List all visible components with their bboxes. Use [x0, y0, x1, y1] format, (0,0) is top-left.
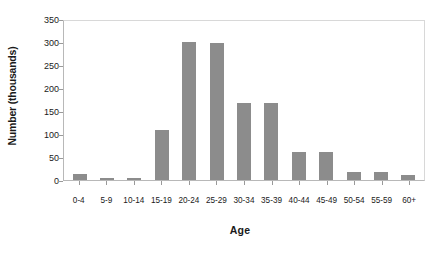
bar — [73, 174, 87, 180]
x-tick-label: 60+ — [389, 196, 429, 205]
bar-slot — [230, 21, 257, 180]
bar-chart: Number (thousands) 050100150200250300350… — [0, 0, 446, 254]
x-tick-mark — [409, 181, 410, 185]
y-tick-label: 0 — [29, 177, 59, 186]
bar — [374, 172, 388, 180]
bar-slot — [66, 21, 93, 180]
y-tick-label: 200 — [29, 85, 59, 94]
bar-slot — [395, 21, 422, 180]
bar — [100, 178, 114, 180]
bar — [401, 175, 415, 180]
bar-slot — [176, 21, 203, 180]
x-tick-mark — [244, 181, 245, 185]
bar-slot — [367, 21, 394, 180]
bar — [264, 103, 278, 180]
bar-slot — [148, 21, 175, 180]
bar-slot — [121, 21, 148, 180]
bar — [292, 152, 306, 180]
bar — [347, 172, 361, 180]
bar — [237, 103, 251, 180]
y-tick-label: 300 — [29, 39, 59, 48]
x-tick-mark — [161, 181, 162, 185]
bars-group — [64, 21, 424, 180]
x-tick-mark — [299, 181, 300, 185]
x-axis-title: Age — [55, 224, 425, 236]
bar-slot — [340, 21, 367, 180]
bar-slot — [203, 21, 230, 180]
bar-slot — [93, 21, 120, 180]
bar-slot — [285, 21, 312, 180]
x-tick-mark — [327, 181, 328, 185]
bar-slot — [258, 21, 285, 180]
x-tick-mark — [79, 181, 80, 185]
y-axis-title: Number (thousands) — [3, 0, 21, 196]
bar — [210, 43, 224, 180]
x-tick-mark — [134, 181, 135, 185]
bar — [127, 178, 141, 180]
x-tick-mark — [189, 181, 190, 185]
bar-slot — [313, 21, 340, 180]
y-tick-mark — [58, 181, 63, 182]
x-tick-mark — [106, 181, 107, 185]
y-tick-label: 350 — [29, 16, 59, 25]
y-tick-label: 100 — [29, 131, 59, 140]
x-tick-mark — [382, 181, 383, 185]
bar — [155, 130, 169, 180]
y-tick-label: 250 — [29, 62, 59, 71]
x-tick-mark — [354, 181, 355, 185]
bar — [182, 42, 196, 180]
x-tick-mark — [272, 181, 273, 185]
x-tick-mark — [216, 181, 217, 185]
bar — [319, 152, 333, 180]
y-tick-label: 150 — [29, 108, 59, 117]
plot-area — [63, 20, 425, 181]
y-tick-label: 50 — [29, 154, 59, 163]
